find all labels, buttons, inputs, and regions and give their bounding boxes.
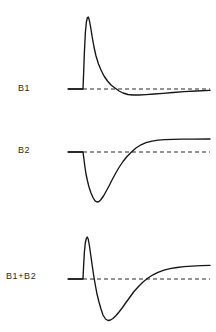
trace-label-b2: B2	[18, 146, 30, 155]
waveform-figure: B1 B2 B1+B2	[0, 0, 216, 332]
trace-label-b1: B1	[18, 84, 30, 93]
trace-label-b1-plus-b2: B1+B2	[6, 272, 36, 281]
waveform-plot	[0, 0, 216, 332]
trace-group-b1	[68, 17, 210, 95]
waveform-curve-b1	[68, 17, 210, 95]
waveform-curve-b2	[68, 139, 210, 202]
trace-group-b1-plus-b2	[68, 237, 210, 321]
trace-group-b2	[68, 139, 210, 202]
